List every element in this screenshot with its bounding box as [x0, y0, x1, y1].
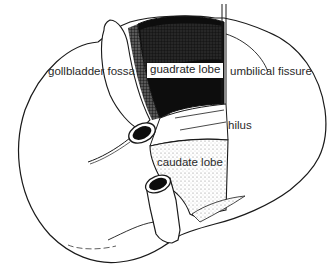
liver-illustration — [0, 0, 336, 279]
label-quadrate-lobe: guadrate lobe — [147, 63, 223, 78]
label-gallbladder-fossa: gollbladder fossa — [48, 66, 135, 78]
liver-diagram: gollbladder fossa guadrate lobe umbilica… — [0, 0, 336, 279]
label-caudate-lobe: caudate lobe — [157, 157, 223, 169]
label-hilus: hilus — [228, 120, 252, 132]
label-umbilical-fissure: umbilical fissure — [230, 66, 312, 78]
